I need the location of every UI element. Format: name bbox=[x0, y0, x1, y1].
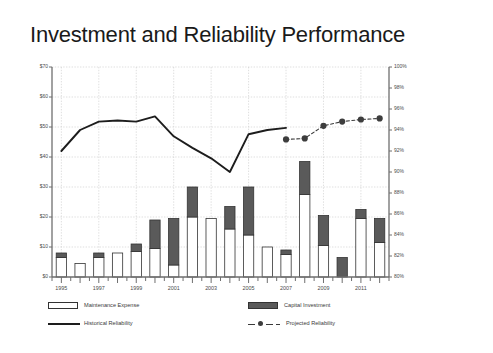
bar-maintenance-expense[interactable] bbox=[150, 249, 160, 278]
bar-maintenance-expense[interactable] bbox=[225, 229, 235, 277]
y-axis-left-tick-label: $10 bbox=[18, 244, 48, 249]
bar-maintenance-expense[interactable] bbox=[374, 243, 384, 278]
line-projected-reliability[interactable] bbox=[286, 118, 380, 139]
bar-capital-investment[interactable] bbox=[356, 210, 366, 219]
y-axis-left-tick-label: $20 bbox=[18, 214, 48, 219]
marker-projected-reliability[interactable] bbox=[320, 123, 326, 129]
x-axis-tick-label: 2009 bbox=[308, 286, 338, 291]
legend-dash-tail-projected-reliability bbox=[276, 324, 280, 325]
bar-capital-investment[interactable] bbox=[337, 258, 347, 278]
legend-label-maintenance-expense: Maintenance Expense bbox=[84, 303, 139, 309]
bar-maintenance-expense[interactable] bbox=[94, 258, 104, 278]
legend-dash-left-projected-reliability bbox=[248, 324, 255, 325]
x-axis-tick-label: 2011 bbox=[346, 286, 376, 291]
bar-capital-investment[interactable] bbox=[318, 216, 328, 246]
bar-capital-investment[interactable] bbox=[187, 187, 197, 217]
bar-maintenance-expense[interactable] bbox=[131, 252, 141, 278]
x-axis-tick-label: 2003 bbox=[196, 286, 226, 291]
bar-capital-investment[interactable] bbox=[225, 207, 235, 230]
y-axis-left-tick-label: $50 bbox=[18, 124, 48, 129]
y-axis-left-tick-label: $0 bbox=[18, 274, 48, 279]
y-axis-left-tick-label: $30 bbox=[18, 184, 48, 189]
bar-capital-investment[interactable] bbox=[300, 162, 310, 195]
chart-svg bbox=[0, 0, 493, 353]
bar-maintenance-expense[interactable] bbox=[281, 255, 291, 278]
legend-label-capital-investment: Capital Investment bbox=[284, 303, 330, 309]
bar-maintenance-expense[interactable] bbox=[75, 264, 85, 278]
x-axis-tick-label: 2005 bbox=[234, 286, 264, 291]
y-axis-right-tick-label: 82% bbox=[394, 253, 404, 258]
slide-canvas: Investment and Reliability Performance $… bbox=[0, 0, 493, 353]
bar-maintenance-expense[interactable] bbox=[112, 253, 122, 277]
legend-dash-right-projected-reliability bbox=[266, 324, 273, 325]
chart-axes bbox=[49, 67, 392, 283]
y-axis-right-tick-label: 90% bbox=[394, 169, 404, 174]
bar-capital-investment[interactable] bbox=[374, 219, 384, 243]
chart-gridlines bbox=[52, 67, 389, 277]
chart-container: $0$10$20$30$40$50$60$7080%82%84%86%88%90… bbox=[0, 0, 493, 353]
bar-capital-investment[interactable] bbox=[131, 244, 141, 252]
bar-maintenance-expense[interactable] bbox=[262, 247, 272, 277]
legend-label-projected-reliability: Projected Reliability bbox=[286, 321, 335, 327]
bar-capital-investment[interactable] bbox=[150, 220, 160, 249]
y-axis-right-tick-label: 88% bbox=[394, 190, 404, 195]
y-axis-right-tick-label: 100% bbox=[394, 64, 407, 69]
marker-projected-reliability[interactable] bbox=[302, 135, 308, 141]
y-axis-right-tick-label: 96% bbox=[394, 106, 404, 111]
y-axis-right-tick-label: 98% bbox=[394, 85, 404, 90]
bar-maintenance-expense[interactable] bbox=[169, 265, 179, 277]
y-axis-right-tick-label: 94% bbox=[394, 127, 404, 132]
bar-capital-investment[interactable] bbox=[94, 253, 104, 258]
legend-dot-projected-reliability bbox=[258, 321, 263, 326]
x-axis-tick-label: 1999 bbox=[121, 286, 151, 291]
bar-capital-investment[interactable] bbox=[281, 250, 291, 255]
x-axis-tick-label: 1995 bbox=[46, 286, 76, 291]
legend-line-historical-reliability bbox=[48, 323, 80, 325]
legend-swatch-maintenance-expense bbox=[48, 302, 78, 309]
y-axis-left-tick-label: $70 bbox=[18, 64, 48, 69]
bar-group bbox=[56, 162, 385, 278]
legend-label-historical-reliability: Historical Reliability bbox=[84, 321, 133, 327]
marker-projected-reliability[interactable] bbox=[339, 119, 345, 125]
bar-maintenance-expense[interactable] bbox=[300, 195, 310, 278]
y-axis-left-tick-label: $40 bbox=[18, 154, 48, 159]
legend-swatch-capital-investment bbox=[248, 302, 278, 309]
y-axis-left-tick-label: $60 bbox=[18, 94, 48, 99]
bar-maintenance-expense[interactable] bbox=[243, 235, 253, 277]
bar-maintenance-expense[interactable] bbox=[56, 258, 66, 278]
bar-maintenance-expense[interactable] bbox=[206, 219, 216, 278]
y-axis-right-tick-label: 84% bbox=[394, 232, 404, 237]
marker-projected-reliability[interactable] bbox=[283, 136, 289, 142]
y-axis-right-tick-label: 86% bbox=[394, 211, 404, 216]
y-axis-right-tick-label: 92% bbox=[394, 148, 404, 153]
x-axis-tick-label: 2007 bbox=[271, 286, 301, 291]
x-axis-tick-label: 1997 bbox=[84, 286, 114, 291]
bar-maintenance-expense[interactable] bbox=[356, 219, 366, 278]
bar-capital-investment[interactable] bbox=[243, 187, 253, 235]
bar-maintenance-expense[interactable] bbox=[318, 246, 328, 278]
bar-maintenance-expense[interactable] bbox=[187, 217, 197, 277]
line-historical-reliability[interactable] bbox=[61, 116, 286, 172]
y-axis-right-tick-label: 80% bbox=[394, 274, 404, 279]
bar-capital-investment[interactable] bbox=[56, 253, 66, 258]
marker-projected-reliability[interactable] bbox=[358, 116, 364, 122]
bar-capital-investment[interactable] bbox=[169, 219, 179, 266]
marker-projected-reliability[interactable] bbox=[377, 115, 383, 121]
x-axis-tick-label: 2001 bbox=[159, 286, 189, 291]
